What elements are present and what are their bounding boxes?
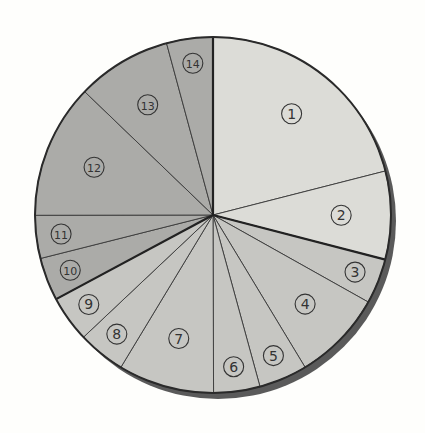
pie-chart: 1234567891011121314 — [0, 0, 425, 433]
svg-text:4: 4 — [301, 296, 310, 312]
svg-text:10: 10 — [63, 265, 77, 278]
svg-text:12: 12 — [87, 162, 101, 175]
svg-text:5: 5 — [269, 348, 278, 364]
svg-text:6: 6 — [229, 359, 238, 375]
svg-text:1: 1 — [287, 106, 296, 122]
svg-text:7: 7 — [174, 331, 183, 347]
svg-text:14: 14 — [186, 58, 200, 71]
svg-text:11: 11 — [54, 229, 68, 242]
svg-text:9: 9 — [84, 296, 93, 312]
svg-text:3: 3 — [351, 264, 360, 280]
svg-text:8: 8 — [112, 326, 121, 342]
svg-text:2: 2 — [337, 207, 346, 223]
svg-text:13: 13 — [141, 100, 155, 113]
